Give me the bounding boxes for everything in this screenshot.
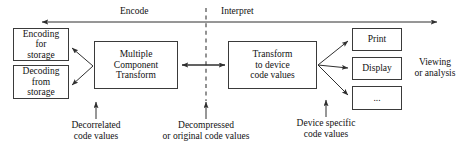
node-label: Decoding from storage bbox=[21, 66, 62, 98]
node-label: Multiple Component Transform bbox=[112, 49, 160, 81]
mct-to-encoding-arrow bbox=[72, 48, 93, 66]
node-display[interactable]: Display bbox=[352, 57, 402, 80]
node-label: ... bbox=[371, 93, 382, 104]
node-ellipsis-other-devices[interactable]: ... bbox=[352, 86, 402, 110]
node-encoding-for-storage[interactable]: Encoding for storage bbox=[13, 28, 69, 61]
node-label: Display bbox=[360, 63, 394, 74]
phase-label-interpret: Interpret bbox=[221, 7, 254, 17]
transform-to-ellipsis-arrow bbox=[318, 65, 348, 95]
node-label: Transform to device code values bbox=[248, 49, 297, 81]
diagram-canvas: Encode Interpret Encoding for storage De… bbox=[0, 0, 467, 152]
node-print[interactable]: Print bbox=[352, 28, 402, 51]
annotation-device-specific-code-values: Device specific code values bbox=[271, 118, 381, 140]
transform-to-print-arrow bbox=[318, 41, 348, 65]
node-label: Encoding for storage bbox=[21, 29, 61, 61]
transform-to-display-arrow bbox=[318, 65, 348, 68]
node-label: Print bbox=[366, 34, 388, 45]
node-multiple-component-transform[interactable]: Multiple Component Transform bbox=[94, 41, 178, 89]
mct-to-decoding-arrow bbox=[72, 66, 93, 85]
annotation-viewing-or-analysis: Viewing or analysis bbox=[405, 57, 465, 79]
phase-label-encode: Encode bbox=[120, 7, 149, 17]
annotation-decompressed-or-original-code-values: Decompressed or original code values bbox=[146, 120, 266, 142]
node-transform-to-device-code-values[interactable]: Transform to device code values bbox=[228, 41, 317, 89]
node-decoding-from-storage[interactable]: Decoding from storage bbox=[13, 65, 69, 99]
annotation-decorrelated-code-values: Decorrelated code values bbox=[41, 120, 151, 142]
